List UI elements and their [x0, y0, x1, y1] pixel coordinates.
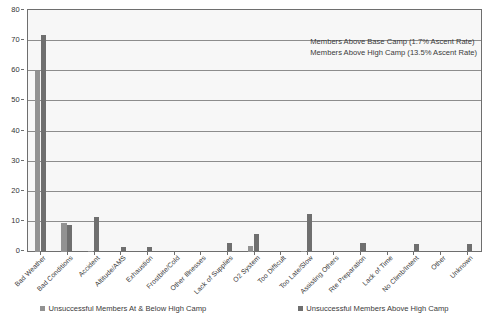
- y-tick-mark: [21, 220, 24, 221]
- x-tick-mark: [40, 252, 41, 255]
- bar: [307, 214, 312, 252]
- y-tick-label: 50: [11, 95, 20, 104]
- y-tick-label: 40: [11, 125, 20, 134]
- x-tick-mark: [280, 252, 281, 255]
- x-tick-mark: [120, 252, 121, 255]
- bar-group: [54, 9, 81, 252]
- x-tick-label: Unknown: [448, 254, 473, 279]
- x-tick-mark: [387, 252, 388, 255]
- legend-item-below-high-camp: Unsuccessful Members At & Below High Cam…: [40, 304, 206, 313]
- x-tick-mark: [467, 252, 468, 255]
- y-tick-label: 70: [11, 35, 20, 44]
- legend-item-above-high-camp: Unsuccessful Members Above High Camp: [298, 304, 448, 313]
- x-tick-mark: [67, 252, 68, 255]
- x-tick-label: Accident: [77, 254, 101, 278]
- bar-group: [160, 9, 187, 252]
- annotation-line-high-camp: Members Above High Camp (13.5% Ascent Ra…: [310, 47, 477, 58]
- y-tick-mark: [21, 99, 24, 100]
- y-tick-mark: [21, 250, 24, 251]
- bar-group: [214, 9, 241, 252]
- y-tick-label: 30: [11, 155, 20, 164]
- bar: [35, 71, 40, 252]
- bar-group: [187, 9, 214, 252]
- bar-group: [80, 9, 107, 252]
- y-tick-label: 80: [11, 5, 20, 14]
- x-tick-label: Other: [430, 254, 447, 271]
- y-tick-mark: [21, 69, 24, 70]
- y-tick-label: 10: [11, 215, 20, 224]
- bar: [61, 223, 66, 252]
- bar-group: [134, 9, 161, 252]
- y-tick-label: 60: [11, 65, 20, 74]
- legend-label: Unsuccessful Members At & Below High Cam…: [48, 304, 206, 313]
- bar-group: [267, 9, 294, 252]
- bar: [41, 35, 46, 252]
- bar-group: [27, 9, 54, 252]
- x-tick-mark: [440, 252, 441, 255]
- annotation-block: Members Above Base Camp (1.7% Ascent Rat…: [310, 36, 477, 59]
- bar: [67, 225, 72, 252]
- x-tick-mark: [333, 252, 334, 255]
- bar-chart: 01020304050607080 Bad WeatherBad Conditi…: [0, 0, 489, 321]
- y-tick-mark: [21, 130, 24, 131]
- bar-group: [240, 9, 267, 252]
- bar-group: [107, 9, 134, 252]
- bar: [94, 217, 99, 252]
- y-tick-mark: [21, 190, 24, 191]
- x-tick-mark: [413, 252, 414, 255]
- bar: [227, 243, 232, 252]
- x-tick-mark: [360, 252, 361, 255]
- y-tick-mark: [21, 160, 24, 161]
- x-tick-mark: [227, 252, 228, 255]
- x-tick-mark: [147, 252, 148, 255]
- bar: [467, 244, 472, 252]
- x-tick-mark: [174, 252, 175, 255]
- y-axis: 01020304050607080: [0, 9, 24, 252]
- legend: Unsuccessful Members At & Below High Cam…: [0, 304, 489, 313]
- x-axis: Bad WeatherBad ConditionsAccidentAltitud…: [0, 252, 489, 300]
- annotation-line-base-camp: Members Above Base Camp (1.7% Ascent Rat…: [310, 36, 477, 47]
- y-tick-mark: [21, 39, 24, 40]
- legend-label: Unsuccessful Members Above High Camp: [306, 304, 448, 313]
- legend-swatch-icon: [298, 306, 303, 311]
- x-tick-mark: [307, 252, 308, 255]
- x-tick-mark: [200, 252, 201, 255]
- bar: [360, 243, 365, 252]
- x-tick-mark: [94, 252, 95, 255]
- bar: [254, 234, 259, 252]
- bar: [414, 244, 419, 252]
- y-tick-mark: [21, 9, 24, 10]
- y-tick-label: 20: [11, 185, 20, 194]
- legend-swatch-icon: [40, 306, 45, 311]
- x-tick-mark: [254, 252, 255, 255]
